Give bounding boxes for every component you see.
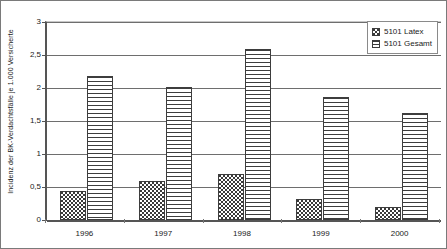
legend-label-gesamt: 5101 Gesamt	[384, 39, 432, 48]
x-axis-tickmark	[45, 219, 46, 223]
y-axis-tickmark	[42, 121, 47, 122]
bar-5101-gesamt-1997	[166, 87, 192, 220]
y-axis-tickmark	[42, 55, 47, 56]
x-axis-tickmark	[360, 219, 361, 223]
x-axis-tickmark	[203, 219, 204, 223]
x-axis-tick-label: 1997	[154, 229, 172, 238]
bar-5101-latex-1999	[296, 199, 322, 220]
y-axis-tick-label: 1,5	[19, 116, 41, 125]
legend-swatch-latex-icon	[372, 28, 380, 36]
y-axis-tick-label: 1	[19, 149, 41, 158]
legend-item-gesamt: 5101 Gesamt	[372, 38, 432, 49]
x-axis-tick-labels: 19961997199819992000	[45, 229, 439, 245]
y-axis-tickmark	[42, 187, 47, 188]
bar-5101-gesamt-2000	[402, 113, 428, 220]
bar-5101-latex-1996	[60, 191, 86, 220]
x-axis-tickmark	[439, 219, 440, 223]
bar-5101-gesamt-1998	[245, 49, 271, 220]
y-axis-tick-label: 0	[19, 215, 41, 224]
y-axis-tick-label: 2,5	[19, 50, 41, 59]
y-axis-tickmark	[42, 88, 47, 89]
x-axis-tick-label: 1999	[312, 229, 330, 238]
y-axis-tickmark	[42, 154, 47, 155]
y-axis-title-text: Incidenz der BK-Verdachtsfälle je 1.000 …	[7, 29, 14, 194]
y-axis-tickmark	[42, 22, 47, 23]
bar-5101-gesamt-1996	[87, 76, 113, 220]
bar-5101-latex-1997	[139, 181, 165, 220]
x-axis-tick-label: 1998	[233, 229, 251, 238]
y-axis-tick-labels: 00,511,522,53	[17, 1, 41, 249]
bar-5101-gesamt-1999	[323, 97, 349, 220]
bar-chart: Incidenz der BK-Verdachtsfälle je 1.000 …	[0, 0, 447, 249]
bar-5101-latex-1998	[218, 174, 244, 220]
y-axis-tick-label: 0,5	[19, 182, 41, 191]
legend-item-latex: 5101 Latex	[372, 26, 432, 37]
x-axis-tick-label: 2000	[391, 229, 409, 238]
legend-label-latex: 5101 Latex	[384, 27, 424, 36]
x-axis-tick-label: 1996	[75, 229, 93, 238]
legend: 5101 Latex 5101 Gesamt	[367, 21, 438, 54]
x-axis-tickmark	[281, 219, 282, 223]
x-axis-tickmark	[124, 219, 125, 223]
legend-swatch-gesamt-icon	[372, 40, 380, 48]
y-axis-tick-label: 3	[19, 17, 41, 26]
x-axis-tickmarks	[45, 219, 439, 225]
y-axis-tick-label: 2	[19, 83, 41, 92]
